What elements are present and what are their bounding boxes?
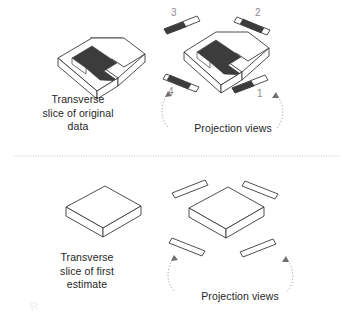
bottom-projection-strip-top-left [172,180,208,198]
bottom-center-shape [189,187,264,238]
bottom-rotation-arc-right [282,256,293,292]
top-projection-views-caption: Projection views [163,122,303,136]
projection-label-3: 3 [171,7,177,18]
bottom-projection-strip-bottom-right [240,239,276,257]
projection-label-4: 4 [168,86,174,97]
projection-label-1: 1 [257,88,263,99]
bottom-panel-caption: Transverse slice of first estimate [22,251,152,292]
projection-label-2: 2 [255,7,261,18]
bottom-transverse-slice-shape [66,186,141,237]
bottom-projection-strip-bottom-left [169,238,205,256]
projection-strip-3 [164,16,200,34]
top-panel-caption: Transverse slice of original data [8,93,148,134]
bottom-projection-strip-top-right [242,181,278,199]
bottom-projection-views-caption: Projection views [170,290,310,304]
top-transverse-slice-shape [56,38,158,99]
bottom-rotation-arc-left [168,255,178,291]
